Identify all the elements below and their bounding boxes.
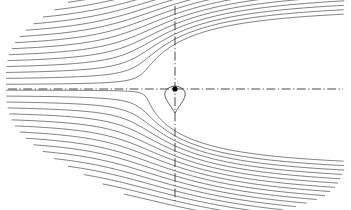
source-point	[172, 86, 177, 91]
source-point-group	[172, 86, 177, 91]
streamline-plot-canvas	[0, 0, 351, 210]
plot-background	[0, 0, 351, 210]
figure-root	[0, 0, 351, 210]
